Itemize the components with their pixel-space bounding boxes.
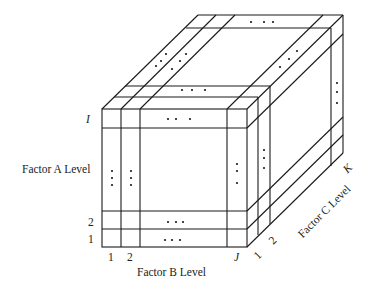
factorial-cube — [0, 0, 372, 290]
factor-b-tick-2: 2 — [127, 252, 133, 264]
front-face — [102, 109, 247, 247]
factor-a-tick-2: 2 — [88, 217, 94, 229]
factor-b-axis-label: Factor B Level — [137, 267, 206, 279]
factor-b-tick-1: 1 — [108, 252, 114, 264]
factor-a-tick-1: 1 — [88, 234, 94, 246]
factor-a-tick-I: I — [86, 114, 90, 126]
top-face — [102, 15, 343, 109]
factor-a-axis-label: Factor A Level — [22, 164, 90, 176]
factor-b-tick-J: J — [234, 252, 239, 264]
